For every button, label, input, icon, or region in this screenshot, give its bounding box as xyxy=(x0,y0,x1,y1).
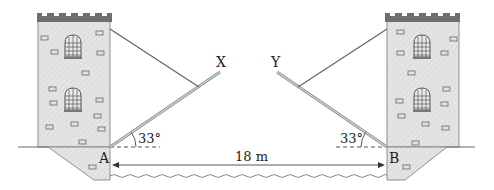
bridge-arm-ax xyxy=(110,72,220,147)
angle-right-label: 33° xyxy=(340,132,363,145)
point-b-label: B xyxy=(389,151,399,165)
angle-left-label: 33° xyxy=(138,132,161,145)
bridge-arm-by xyxy=(277,72,387,147)
angle-arc-left xyxy=(132,133,137,148)
end-y-label: Y xyxy=(271,55,280,69)
point-a-label: A xyxy=(99,151,109,165)
cable-left xyxy=(110,29,199,87)
distance-label: 18 m xyxy=(235,150,268,163)
end-x-label: X xyxy=(216,55,226,69)
cable-right xyxy=(298,29,387,87)
water-surface xyxy=(110,175,387,178)
drawbridge-diagram: A B X Y 33° 33° 18 m xyxy=(0,0,494,190)
